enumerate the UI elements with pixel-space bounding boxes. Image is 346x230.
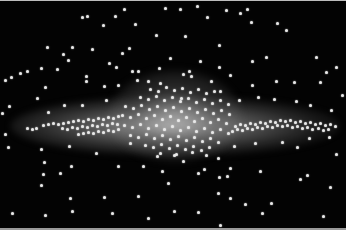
outer-star	[329, 186, 332, 189]
outer-star	[197, 211, 200, 214]
outer-star	[218, 66, 221, 69]
outer-star	[123, 8, 126, 11]
bulge-star	[147, 127, 150, 130]
outer-star	[293, 81, 296, 84]
bulge-star	[139, 96, 142, 99]
bulge-star	[157, 90, 160, 93]
outer-star	[70, 165, 73, 168]
bulge-star	[132, 107, 135, 110]
outer-star	[184, 35, 187, 38]
outer-star	[40, 184, 43, 187]
bulge-star	[171, 96, 174, 99]
disk-star	[324, 124, 327, 127]
disk-star	[77, 119, 80, 122]
disk-star	[296, 125, 299, 128]
outer-star	[105, 99, 108, 102]
disk-star	[106, 124, 109, 127]
bulge-star	[152, 146, 155, 149]
bulge-star	[149, 88, 152, 91]
outer-star	[179, 8, 182, 11]
bulge-star	[192, 145, 195, 148]
outer-star	[229, 167, 232, 170]
outer-star	[322, 215, 325, 218]
outer-star	[7, 146, 10, 149]
outer-star	[71, 210, 74, 213]
disk-star	[117, 128, 120, 131]
outer-star	[239, 12, 242, 15]
disk-star	[97, 117, 100, 120]
bulge-star	[177, 135, 180, 138]
bulge-star	[195, 101, 198, 104]
disk-star	[92, 132, 95, 135]
bulge-star	[211, 102, 214, 105]
disk-star	[31, 128, 34, 131]
outer-star	[276, 22, 279, 25]
disk-star	[112, 117, 115, 120]
outer-star	[8, 105, 11, 108]
outer-star	[117, 84, 120, 87]
outer-star	[85, 75, 88, 78]
bulge-star	[129, 134, 132, 137]
outer-star	[244, 203, 247, 206]
disk-star	[271, 126, 274, 129]
outer-star	[47, 111, 50, 114]
bulge-star	[123, 124, 126, 127]
bulge-star	[155, 95, 158, 98]
bulge-star	[176, 144, 179, 147]
outer-star	[285, 29, 288, 32]
outer-star	[63, 104, 66, 107]
galaxy-scene	[0, 0, 346, 230]
disk-star	[317, 127, 320, 130]
outer-star	[218, 44, 221, 47]
bulge-star	[193, 136, 196, 139]
bulge-star	[184, 148, 187, 151]
outer-star	[42, 173, 45, 176]
bulge-star	[153, 114, 156, 117]
outer-star	[196, 5, 199, 8]
disk-star	[241, 129, 244, 132]
disk-star	[66, 128, 69, 131]
outer-star	[254, 142, 257, 145]
outer-star	[270, 202, 273, 205]
bulge-star	[217, 141, 220, 144]
disk-star	[86, 126, 89, 129]
outer-star	[188, 70, 191, 73]
outer-star	[4, 133, 7, 136]
outer-star	[136, 79, 139, 82]
outer-star	[330, 109, 333, 112]
outer-star	[161, 170, 164, 173]
bulge-star	[140, 104, 143, 107]
outer-star	[128, 47, 131, 50]
outer-star	[309, 104, 312, 107]
outer-star	[251, 84, 254, 87]
outer-star	[10, 76, 13, 79]
outer-star	[4, 79, 7, 82]
disk-star	[101, 123, 104, 126]
outer-star	[147, 80, 150, 83]
outer-star	[69, 197, 72, 200]
outer-star	[147, 217, 150, 220]
outer-star	[1, 112, 4, 115]
outer-star	[81, 16, 84, 19]
bulge-star	[156, 105, 159, 108]
outer-star	[225, 9, 228, 12]
bulge-star	[203, 127, 206, 130]
bulge-star	[169, 115, 172, 118]
disk-star	[87, 131, 90, 134]
bulge-star	[187, 126, 190, 129]
outer-star	[44, 214, 47, 217]
outer-star	[182, 160, 185, 163]
disk-star	[82, 120, 85, 123]
bulge-star	[171, 125, 174, 128]
disk-star	[77, 133, 80, 136]
bulge-star	[187, 97, 190, 100]
bulge-star	[148, 108, 151, 111]
outer-star	[257, 96, 260, 99]
outer-star	[158, 67, 161, 70]
outer-star	[137, 70, 140, 73]
bulge-star	[193, 120, 196, 123]
bulge-star	[217, 118, 220, 121]
outer-star	[71, 46, 74, 49]
outer-star	[229, 74, 232, 77]
disk-star	[246, 127, 249, 130]
